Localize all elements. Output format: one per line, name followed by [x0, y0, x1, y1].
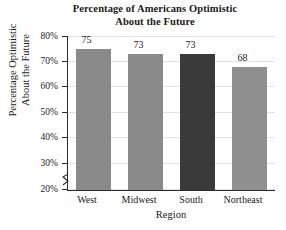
bar-value-south: 73 — [173, 40, 208, 50]
bar-midwest — [128, 54, 163, 190]
x-tick-label-south: South — [166, 194, 216, 205]
y-tick-label-20: 20% — [24, 185, 58, 195]
y-axis-title-line-1: Percentage Optimistic — [7, 0, 20, 146]
chart-title-line-2: About the Future — [40, 16, 270, 29]
x-tick-label-west: West — [62, 194, 112, 205]
bar-value-northeast: 68 — [225, 53, 260, 63]
bar-value-midwest: 73 — [121, 40, 156, 50]
y-axis-title-line-2: About the Future — [20, 0, 33, 146]
y-tick-mark-50 — [62, 112, 67, 113]
bar-chart-figure: Percentage of Americans Optimistic About… — [0, 0, 286, 230]
y-tick-mark-30 — [62, 163, 67, 164]
y-axis-line — [67, 36, 68, 190]
y-tick-mark-40 — [62, 137, 67, 138]
chart-title: Percentage of Americans Optimistic About… — [40, 3, 270, 28]
x-tick-label-midwest: Midwest — [111, 194, 167, 205]
bar-value-west: 75 — [69, 35, 104, 45]
y-tick-mark-60 — [62, 86, 67, 87]
y-axis-title: Percentage Optimistic About the Future — [7, 0, 33, 146]
x-axis-title: Region — [67, 209, 275, 220]
x-axis-line — [67, 190, 275, 191]
bar-northeast — [232, 67, 267, 190]
x-tick-label-northeast: Northeast — [212, 194, 274, 205]
chart-title-line-1: Percentage of Americans Optimistic — [40, 3, 270, 16]
y-tick-label-30: 30% — [24, 159, 58, 169]
bar-south — [180, 54, 215, 190]
y-tick-mark-20 — [62, 189, 67, 190]
axis-break-icon — [61, 173, 73, 186]
bar-west — [76, 49, 111, 190]
y-tick-mark-80 — [62, 36, 67, 37]
y-tick-mark-70 — [62, 61, 67, 62]
